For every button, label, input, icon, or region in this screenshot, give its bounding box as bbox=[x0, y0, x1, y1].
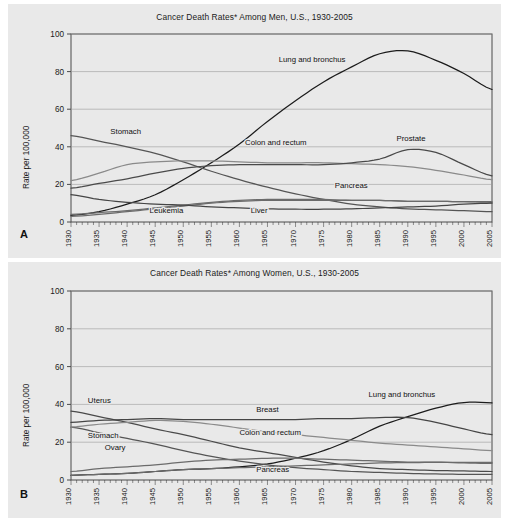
svg-text:1950: 1950 bbox=[176, 230, 185, 247]
svg-text:20: 20 bbox=[55, 180, 65, 189]
svg-text:1980: 1980 bbox=[345, 488, 354, 505]
svg-text:1930: 1930 bbox=[64, 488, 73, 505]
svg-text:Leukemia: Leukemia bbox=[150, 206, 184, 215]
svg-text:1940: 1940 bbox=[120, 230, 129, 247]
svg-text:1995: 1995 bbox=[429, 230, 438, 247]
svg-text:Colon and rectum: Colon and rectum bbox=[245, 138, 307, 147]
svg-text:80: 80 bbox=[55, 325, 65, 334]
svg-text:Prostate: Prostate bbox=[397, 134, 426, 143]
svg-text:1965: 1965 bbox=[260, 488, 269, 505]
svg-text:1935: 1935 bbox=[92, 488, 101, 505]
svg-text:Lung and bronchus: Lung and bronchus bbox=[279, 55, 346, 64]
svg-text:40: 40 bbox=[55, 143, 65, 152]
svg-text:1960: 1960 bbox=[232, 488, 241, 505]
panel-a-men: Cancer Death Rates* Among Men, U.S., 193… bbox=[8, 4, 501, 258]
svg-text:1990: 1990 bbox=[401, 488, 410, 505]
svg-text:60: 60 bbox=[55, 363, 65, 372]
svg-text:2000: 2000 bbox=[457, 488, 466, 505]
svg-text:Stomach: Stomach bbox=[88, 431, 119, 440]
svg-text:1975: 1975 bbox=[317, 230, 326, 247]
svg-text:1945: 1945 bbox=[148, 230, 157, 247]
svg-text:1985: 1985 bbox=[373, 230, 382, 247]
svg-text:1945: 1945 bbox=[148, 488, 157, 505]
svg-text:40: 40 bbox=[55, 400, 65, 409]
svg-text:Uterus: Uterus bbox=[88, 396, 111, 405]
svg-text:2005: 2005 bbox=[485, 488, 494, 505]
svg-text:1930: 1930 bbox=[64, 230, 73, 247]
svg-text:60: 60 bbox=[55, 105, 65, 114]
svg-text:1995: 1995 bbox=[429, 488, 438, 505]
svg-text:1955: 1955 bbox=[204, 230, 213, 247]
svg-text:1970: 1970 bbox=[289, 230, 298, 247]
svg-text:1965: 1965 bbox=[260, 230, 269, 247]
svg-text:Liver: Liver bbox=[251, 206, 268, 215]
svg-text:1970: 1970 bbox=[289, 488, 298, 505]
panel-b-plot: 0204060801001930193519401945195019551960… bbox=[8, 262, 501, 518]
svg-text:100: 100 bbox=[50, 287, 64, 296]
panel-b-women: Cancer Death Rates* Among Women, U.S., 1… bbox=[8, 262, 501, 518]
svg-text:1960: 1960 bbox=[232, 230, 241, 247]
svg-text:2000: 2000 bbox=[457, 230, 466, 247]
svg-text:Stomach: Stomach bbox=[110, 127, 141, 136]
svg-text:1955: 1955 bbox=[204, 488, 213, 505]
svg-text:1985: 1985 bbox=[373, 488, 382, 505]
svg-text:0: 0 bbox=[59, 476, 64, 485]
svg-text:1975: 1975 bbox=[317, 488, 326, 505]
panel-a-plot: 0204060801001930193519401945195019551960… bbox=[8, 4, 501, 258]
svg-text:Lung and bronchus: Lung and bronchus bbox=[369, 390, 436, 399]
cancer-death-rates-figure: Cancer Death Rates* Among Men, U.S., 193… bbox=[0, 0, 509, 522]
svg-text:2005: 2005 bbox=[485, 230, 494, 247]
svg-text:Pancreas: Pancreas bbox=[256, 465, 289, 474]
svg-text:0: 0 bbox=[59, 218, 64, 227]
svg-text:Colon and rectum: Colon and rectum bbox=[239, 428, 301, 437]
svg-text:Breast: Breast bbox=[256, 405, 279, 414]
svg-text:1950: 1950 bbox=[176, 488, 185, 505]
svg-text:1980: 1980 bbox=[345, 230, 354, 247]
svg-text:Ovary: Ovary bbox=[105, 443, 126, 452]
svg-text:1990: 1990 bbox=[401, 230, 410, 247]
svg-text:80: 80 bbox=[55, 68, 65, 77]
svg-text:1935: 1935 bbox=[92, 230, 101, 247]
svg-text:20: 20 bbox=[55, 438, 65, 447]
svg-text:1940: 1940 bbox=[120, 488, 129, 505]
svg-text:100: 100 bbox=[50, 30, 64, 39]
svg-text:Pancreas: Pancreas bbox=[335, 181, 368, 190]
